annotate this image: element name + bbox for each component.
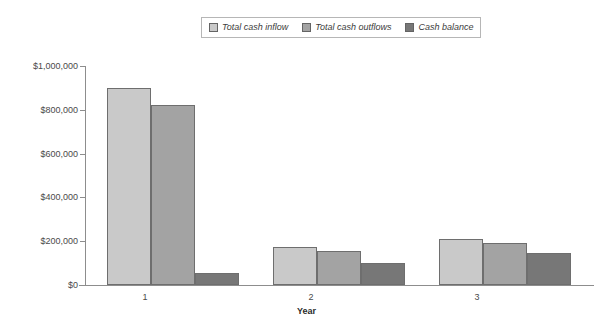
y-axis-tick [80, 154, 85, 155]
x-axis-labels: 1 2 3 [85, 292, 583, 306]
legend-swatch-icon [405, 23, 414, 32]
plot-area [85, 66, 583, 285]
y-axis-tick [80, 197, 85, 198]
y-tick-label: $200,000 [40, 236, 78, 246]
chart-legend: Total cash inflow Total cash outflows Ca… [201, 17, 481, 38]
legend-label: Total cash inflow [222, 23, 288, 32]
legend-item-cash-balance: Cash balance [405, 23, 473, 32]
bar-1-series-1 [107, 88, 151, 285]
legend-label: Total cash outflows [315, 23, 391, 32]
legend-item-total-cash-inflow: Total cash inflow [209, 23, 288, 32]
x-axis-title: Year [0, 306, 613, 316]
y-tick-label: $600,000 [40, 149, 78, 159]
bar-chart: Total cash inflow Total cash outflows Ca… [0, 0, 613, 331]
bar-3-series-1 [439, 239, 483, 285]
y-axis-tick [80, 66, 85, 67]
x-tick-label: 2 [308, 292, 313, 302]
bar-group-year-2 [273, 66, 418, 285]
y-tick-label: $800,000 [40, 105, 78, 115]
y-tick-label: $400,000 [40, 192, 78, 202]
bar-1-series-2 [151, 105, 195, 285]
x-axis-line [79, 285, 594, 286]
bar-2-series-3 [361, 263, 405, 285]
y-tick-label: $1,000,000 [33, 61, 78, 71]
bar-1-series-3 [195, 273, 239, 285]
legend-swatch-icon [209, 23, 218, 32]
legend-item-total-cash-outflows: Total cash outflows [302, 23, 391, 32]
bar-group-year-1 [107, 66, 252, 285]
y-axis-tick [80, 285, 85, 286]
x-tick-label: 1 [142, 292, 147, 302]
y-tick-label: $0 [68, 280, 78, 290]
bar-2-series-2 [317, 251, 361, 285]
x-tick-label: 3 [474, 292, 479, 302]
y-axis-tick [80, 110, 85, 111]
bar-2-series-1 [273, 247, 317, 285]
y-axis-line [85, 66, 86, 285]
bar-group-year-3 [439, 66, 584, 285]
legend-label: Cash balance [418, 23, 473, 32]
bar-3-series-2 [483, 243, 527, 285]
y-axis-labels: $1,000,000 $800,000 $600,000 $400,000 $2… [0, 66, 78, 285]
bar-3-series-3 [527, 253, 571, 285]
y-axis-tick [80, 241, 85, 242]
legend-swatch-icon [302, 23, 311, 32]
